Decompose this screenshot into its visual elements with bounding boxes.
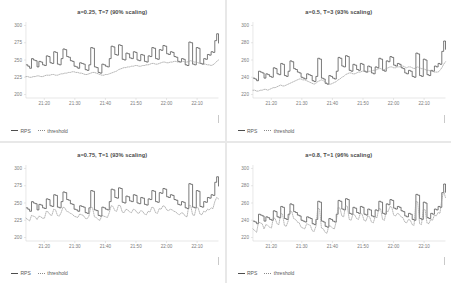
plot-area: 22024026028030021:2021:3021:4021:5022:00… [227,18,451,114]
legend-line-icon-rps [11,273,18,274]
svg-text:21:50: 21:50 [357,101,369,106]
panel-title: a=0.8, T=1 (96% scaling) [227,152,451,158]
plot-area: 22024026028030021:2021:3021:4021:5022:00… [227,161,451,257]
plot-svg-2: 20022525027530021:2021:3021:4021:5022:00… [0,161,225,257]
panel-title: a=0.25, T=7 (90% scaling) [0,9,225,15]
svg-text:22:10: 22:10 [191,101,203,106]
legend-item-threshold: threshold [38,128,68,134]
svg-text:21:30: 21:30 [69,101,81,106]
svg-text:200: 200 [14,92,22,97]
svg-text:21:40: 21:40 [100,243,112,248]
svg-text:21:20: 21:20 [39,243,51,248]
svg-text:250: 250 [14,58,22,63]
legend-item-threshold: threshold [38,270,68,276]
svg-text:21:50: 21:50 [130,243,142,248]
legend-label-threshold: threshold [274,128,295,134]
legend-line-icon-threshold [264,130,271,131]
svg-text:21:50: 21:50 [357,243,369,248]
svg-text:22:00: 22:00 [387,243,399,248]
plot-svg-0: 20022525027530021:2021:3021:4021:5022:00… [0,18,225,114]
corner-marker [444,115,445,123]
legend-item-threshold: threshold [264,270,294,276]
legend: RPS threshold [238,270,295,276]
svg-text:240: 240 [241,75,249,80]
legend-line-icon-threshold [38,130,45,131]
legend: RPS threshold [11,128,68,134]
corner-marker [444,257,445,265]
svg-text:260: 260 [241,200,249,205]
corner-marker [218,115,219,123]
svg-text:300: 300 [241,23,249,28]
legend: RPS threshold [11,270,68,276]
legend-line-icon-rps [238,273,245,274]
svg-text:21:50: 21:50 [130,101,142,106]
plot-svg-1: 22024026028030021:2021:3021:4021:5022:00… [227,18,451,114]
svg-text:21:40: 21:40 [326,243,338,248]
svg-text:21:40: 21:40 [100,101,112,106]
plot-area: 20022525027530021:2021:3021:4021:5022:00… [0,161,225,257]
svg-text:21:30: 21:30 [296,243,308,248]
svg-text:200: 200 [14,235,22,240]
chart-panel-2: a=0.75, T=1 (93% scaling) 20022525027530… [0,143,225,283]
legend-label-threshold: threshold [47,270,68,276]
legend-label-threshold: threshold [47,128,68,134]
svg-text:280: 280 [241,183,249,188]
svg-text:22:10: 22:10 [418,101,430,106]
svg-text:225: 225 [14,75,22,80]
legend-label-rps: RPS [21,128,31,134]
legend-item-rps: RPS [238,270,258,276]
legend-line-icon-rps [238,130,245,131]
svg-text:22:00: 22:00 [161,243,173,248]
svg-text:300: 300 [241,166,249,171]
legend-label-rps: RPS [21,270,31,276]
corner-marker [218,257,219,265]
svg-text:220: 220 [241,235,249,240]
svg-text:220: 220 [241,92,249,97]
legend-label-rps: RPS [247,270,257,276]
svg-text:260: 260 [241,58,249,63]
chart-panel-3: a=0.8, T=1 (96% scaling) 220240260280300… [227,143,451,283]
svg-text:275: 275 [14,183,22,188]
legend-item-threshold: threshold [264,128,294,134]
svg-text:250: 250 [14,200,22,205]
legend-label-threshold: threshold [274,270,295,276]
svg-text:22:00: 22:00 [387,101,399,106]
legend: RPS threshold [238,128,295,134]
legend-item-rps: RPS [11,128,31,134]
chart-grid: a=0.25, T=7 (90% scaling) 20022525027530… [0,0,451,283]
svg-text:21:30: 21:30 [296,101,308,106]
legend-line-icon-rps [11,130,18,131]
plot-area: 20022525027530021:2021:3021:4021:5022:00… [0,18,225,114]
svg-text:22:10: 22:10 [191,243,203,248]
panel-title: a=0.5, T=3 (93% scaling) [227,9,451,15]
legend-label-rps: RPS [247,128,257,134]
legend-line-icon-threshold [38,273,45,274]
svg-text:300: 300 [14,23,22,28]
svg-text:300: 300 [14,166,22,171]
legend-item-rps: RPS [11,270,31,276]
plot-svg-3: 22024026028030021:2021:3021:4021:5022:00… [227,161,451,257]
svg-text:225: 225 [14,217,22,222]
svg-text:280: 280 [241,40,249,45]
svg-text:21:40: 21:40 [326,101,338,106]
svg-text:22:00: 22:00 [161,101,173,106]
chart-panel-0: a=0.25, T=7 (90% scaling) 20022525027530… [0,0,225,141]
svg-text:21:20: 21:20 [265,243,277,248]
svg-text:275: 275 [14,40,22,45]
svg-text:21:20: 21:20 [265,101,277,106]
legend-line-icon-threshold [264,273,271,274]
svg-text:21:20: 21:20 [39,101,51,106]
chart-panel-1: a=0.5, T=3 (93% scaling) 220240260280300… [227,0,451,141]
panel-title: a=0.75, T=1 (93% scaling) [0,152,225,158]
svg-text:22:10: 22:10 [418,243,430,248]
svg-text:240: 240 [241,217,249,222]
legend-item-rps: RPS [238,128,258,134]
svg-text:21:30: 21:30 [69,243,81,248]
